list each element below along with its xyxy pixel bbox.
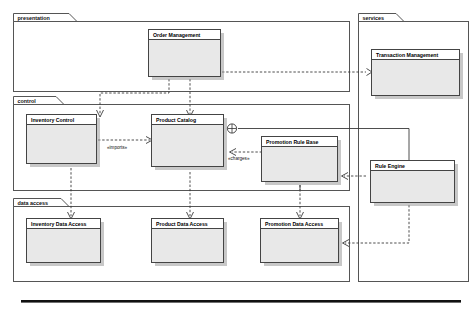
diagram-canvas: presentation control data access service…: [0, 0, 476, 313]
provided-interface-ball-icon: [227, 124, 236, 133]
component-promotion-data-access[interactable]: Promotion Data Access: [261, 219, 343, 267]
component-transaction-management[interactable]: Transaction Management: [372, 50, 464, 100]
package-label-data-access: data access: [18, 200, 49, 206]
component-label-promotion-data-access: Promotion Data Access: [265, 221, 323, 227]
stereotype-label-charges: «charges»: [228, 156, 250, 161]
component-label-inventory-control: Inventory Control: [31, 117, 75, 123]
component-inventory-control[interactable]: Inventory Control: [27, 115, 101, 168]
component-label-transaction-management: Transaction Management: [376, 52, 439, 58]
component-product-data-access[interactable]: Product Data Access: [152, 219, 228, 267]
component-rule-engine[interactable]: Rule Engine: [371, 161, 459, 207]
component-promotion-rule-base[interactable]: Promotion Rule Base: [262, 137, 342, 186]
package-label-presentation: presentation: [18, 15, 50, 21]
component-label-order-management: Order Management: [153, 32, 201, 38]
package-label-services: services: [363, 15, 385, 21]
component-product-catalog[interactable]: Product Catalog: [152, 115, 228, 171]
package-label-control: control: [18, 98, 37, 104]
component-label-rule-engine: Rule Engine: [375, 163, 405, 169]
component-label-product-data-access: Product Data Access: [156, 221, 208, 227]
component-label-inventory-data-access: Inventory Data Access: [31, 221, 87, 227]
bottom-divider: [21, 300, 461, 303]
component-order-management[interactable]: Order Management: [149, 30, 225, 81]
stereotype-label-imports: «imports»: [107, 145, 128, 150]
component-inventory-data-access[interactable]: Inventory Data Access: [27, 219, 105, 267]
component-label-product-catalog: Product Catalog: [156, 117, 196, 123]
component-label-promotion-rule-base: Promotion Rule Base: [266, 139, 319, 145]
